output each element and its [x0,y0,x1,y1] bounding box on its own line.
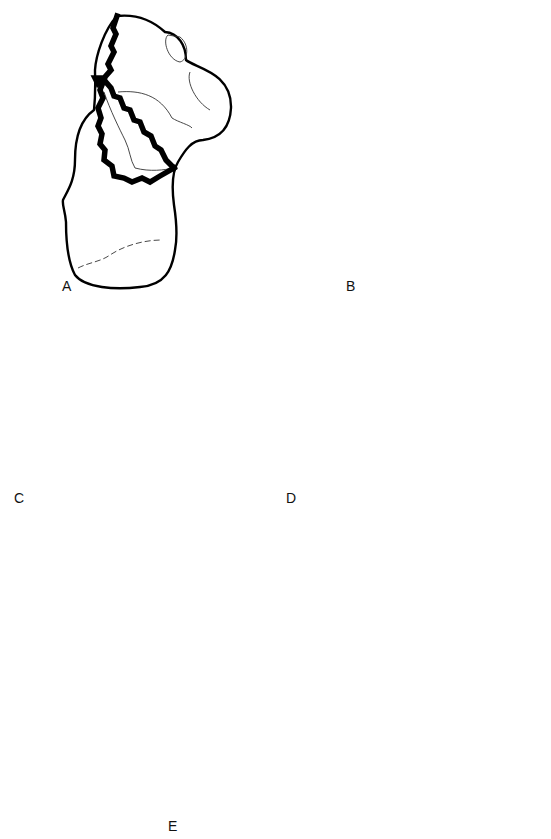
panel-label-c: C [14,490,24,506]
panel-label-e: E [168,818,177,834]
fracture-illustration [0,0,551,839]
panel-label-b: B [346,278,355,294]
panel-a-bone [63,16,231,289]
panel-a-outline [63,16,231,289]
panel-label-a: A [62,278,71,294]
panel-label-d: D [286,490,296,506]
